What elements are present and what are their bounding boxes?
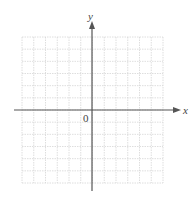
coordinate-plane: y x 0 (0, 0, 196, 201)
x-axis-label: x (182, 104, 188, 116)
y-axis-arrow-icon (89, 21, 95, 29)
x-axis-arrow-icon (173, 107, 181, 113)
origin-label: 0 (83, 112, 89, 124)
y-axis-label: y (87, 10, 93, 22)
